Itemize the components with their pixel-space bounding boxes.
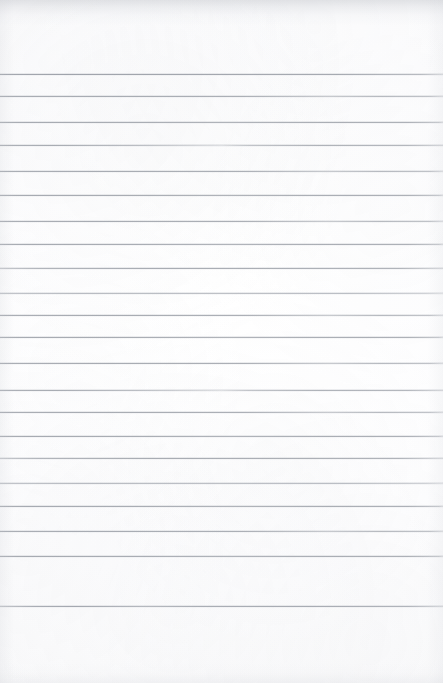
ruled-line <box>0 606 443 607</box>
ruled-line <box>0 195 443 196</box>
scan-shadow-right <box>427 0 443 683</box>
scan-shadow-bottom <box>0 663 443 683</box>
ruled-line <box>0 244 443 245</box>
ruled-line <box>0 268 443 269</box>
ruled-line <box>0 221 443 222</box>
ruled-line <box>0 556 443 557</box>
ruled-line <box>0 74 443 75</box>
scanned-page <box>0 0 443 683</box>
ruled-line <box>0 436 443 437</box>
ruled-line <box>0 337 443 338</box>
ruled-line <box>0 122 443 123</box>
scan-shadow-top <box>0 0 443 26</box>
scan-shadow-left <box>0 0 14 683</box>
ruled-line <box>0 412 443 413</box>
ruled-line <box>0 363 443 364</box>
ruled-line <box>0 483 443 484</box>
ruled-line <box>0 315 443 316</box>
ruled-line <box>0 293 443 294</box>
ruled-line <box>0 96 443 97</box>
ruled-line <box>0 145 443 146</box>
ruled-line <box>0 506 443 507</box>
ruled-line <box>0 531 443 532</box>
ruled-line <box>0 171 443 172</box>
ruled-lines-layer <box>0 0 443 683</box>
ruled-line <box>0 390 443 391</box>
ruled-line <box>0 458 443 459</box>
